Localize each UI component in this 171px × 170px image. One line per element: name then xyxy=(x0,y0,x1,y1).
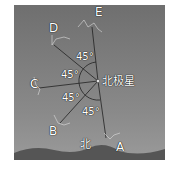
label-E: E xyxy=(95,6,103,18)
angle-DC: 45° xyxy=(61,70,79,80)
label-C: C xyxy=(30,78,38,90)
label-D: D xyxy=(49,22,58,34)
north-label: 北 xyxy=(80,139,91,151)
angle-CB: 45° xyxy=(62,93,80,103)
angle-ED: 45° xyxy=(76,52,94,62)
label-B: B xyxy=(49,125,57,137)
polaris-label: 北极星 xyxy=(102,76,135,88)
night-sky-diagram: E D C B A 北极星 北 45° 45° 45° 45° xyxy=(14,5,165,160)
angle-BA: 45° xyxy=(82,107,100,117)
label-A: A xyxy=(116,141,124,153)
